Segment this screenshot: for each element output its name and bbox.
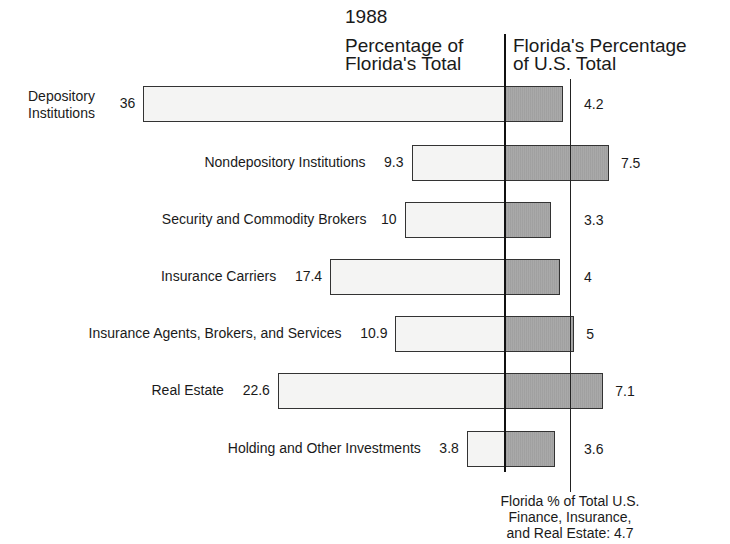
- bar-florida-total: [412, 145, 506, 181]
- right-value-label: 5: [586, 326, 594, 342]
- bar-us-percentage: [505, 202, 551, 238]
- bar-florida-total: [143, 86, 506, 122]
- right-value-label: 7.1: [615, 383, 634, 399]
- bar-us-percentage: [505, 373, 603, 409]
- reference-line-label: Florida % of Total U.S. Finance, Insuran…: [470, 493, 670, 541]
- bar-us-percentage: [505, 86, 563, 122]
- center-axis: [504, 34, 506, 472]
- right-value-label: 4.2: [584, 96, 603, 112]
- category-label: Holding and Other Investments: [228, 440, 421, 457]
- bar-florida-total: [278, 373, 506, 409]
- right-value-label: 4: [584, 269, 592, 285]
- bar-us-percentage: [505, 259, 560, 295]
- left-value-label: 3.8: [439, 440, 458, 456]
- category-label: Security and Commodity Brokers: [162, 211, 367, 228]
- left-panel-header: Percentage of Florida's Total: [345, 37, 463, 73]
- category-label: Insurance Carriers: [161, 268, 276, 285]
- category-label: Insurance Agents, Brokers, and Services: [89, 325, 342, 342]
- left-value-label: 17.4: [295, 268, 322, 284]
- bar-us-percentage: [505, 431, 555, 467]
- left-value-label: 10.9: [360, 325, 387, 341]
- bar-florida-total: [330, 259, 506, 295]
- bar-us-percentage: [505, 145, 609, 181]
- left-value-label: 10: [381, 211, 397, 227]
- category-label: Nondepository Institutions: [204, 154, 365, 171]
- bar-florida-total: [405, 202, 507, 238]
- left-value-label: 22.6: [243, 382, 270, 398]
- category-label: Depository Institutions: [28, 88, 95, 122]
- category-label: Real Estate: [152, 382, 224, 399]
- bar-florida-total: [395, 316, 506, 352]
- reference-line: [570, 79, 571, 492]
- right-value-label: 7.5: [621, 155, 640, 171]
- bar-florida-total: [467, 431, 506, 467]
- right-value-label: 3.3: [584, 212, 603, 228]
- chart-title: 1988: [345, 6, 387, 28]
- right-panel-header: Florida's Percentage of U.S. Total: [513, 37, 687, 73]
- left-value-label: 9.3: [384, 154, 403, 170]
- left-value-label: 36: [120, 95, 136, 111]
- right-value-label: 3.6: [584, 441, 603, 457]
- bar-us-percentage: [505, 316, 574, 352]
